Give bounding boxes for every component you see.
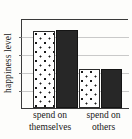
bar-spend-on-themselves-dotted [33,31,55,108]
x-axis-line [21,108,129,109]
y-axis-tick [19,37,22,38]
x-tick-label-spend-on-others: spend on others [77,110,130,133]
y-axis-tick [19,55,22,56]
y-axis-tick [19,73,22,74]
y-axis-title: happiness level [3,33,13,93]
plot-area [21,19,128,108]
x-tick-label-line-1: spend on [22,110,78,122]
x-tick-label-line-2: themselves [22,122,78,134]
bar-spend-on-others-dotted [79,69,100,108]
bar-chart-figure: happiness level spend on themselves spen… [0,0,132,139]
y-axis-title-wrap: happiness level [0,16,16,110]
bar-spend-on-themselves-solid [56,30,78,108]
x-tick-label-line-2: others [77,122,130,134]
y-axis-tick [19,91,22,92]
x-tick-label-line-1: spend on [77,110,130,122]
bar-spend-on-others-solid [101,69,122,108]
x-tick-label-spend-on-themselves: spend on themselves [22,110,78,133]
